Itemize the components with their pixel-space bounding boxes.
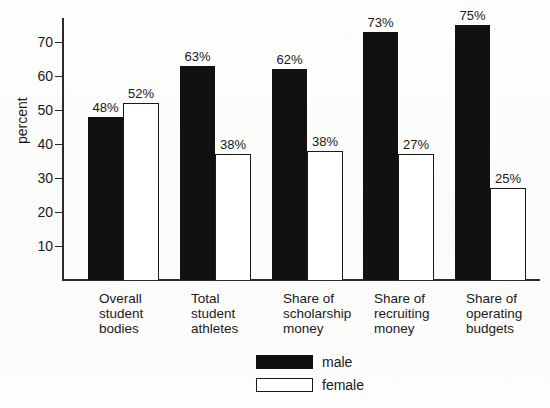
chart-legend: malefemale: [256, 355, 364, 401]
y-axis-tick-10: [55, 246, 63, 247]
y-axis-tick-20: [55, 212, 63, 213]
bar-value-label: 38%: [312, 134, 338, 149]
legend-label-female: female: [322, 378, 364, 392]
category-label: Share of operating budgets: [466, 291, 522, 336]
legend-swatch-female: [256, 378, 313, 392]
y-axis-tick-50: [55, 110, 63, 111]
y-axis-tick-label-70: 70: [13, 35, 53, 49]
y-axis-tick-60: [55, 76, 63, 77]
bar-group: 48%52%: [88, 103, 159, 280]
grouped-bar-chart: percent 10203040506070 48%52%63%38%62%38…: [0, 0, 550, 408]
legend-swatch-male: [256, 355, 313, 369]
bar-female: 27%: [398, 154, 434, 280]
y-axis-tick-30: [55, 178, 63, 179]
bar-value-label: 48%: [92, 100, 118, 115]
bar-value-label: 25%: [495, 171, 521, 186]
y-axis-tick-70: [55, 42, 63, 43]
bar-female: 38%: [215, 154, 251, 280]
bar-group: 62%38%: [272, 69, 343, 280]
bar-male: 62%: [272, 69, 307, 280]
bar-group: 75%25%: [455, 25, 526, 280]
plot-area: 48%52%63%38%62%38%73%27%75%25%: [63, 18, 540, 280]
category-label: Overall student bodies: [99, 291, 143, 336]
bar-male: 73%: [363, 32, 398, 280]
bar-female: 25%: [490, 188, 526, 280]
bar-male: 75%: [455, 25, 490, 280]
legend-label-male: male: [322, 355, 352, 369]
y-axis-tick-label-50: 50: [13, 103, 53, 117]
bar-value-label: 63%: [184, 49, 210, 64]
bar-female: 52%: [123, 103, 159, 280]
bar-value-label: 27%: [403, 137, 429, 152]
bar-value-label: 75%: [459, 8, 485, 23]
category-label: Total student athletes: [191, 291, 238, 336]
bar-female: 38%: [307, 151, 343, 280]
bar-value-label: 38%: [220, 137, 246, 152]
y-axis-tick-label-30: 30: [13, 171, 53, 185]
legend-item-female: female: [256, 378, 364, 392]
y-axis-tick-label-40: 40: [13, 137, 53, 151]
bar-male: 48%: [88, 117, 123, 280]
bar-group: 73%27%: [363, 32, 434, 280]
y-axis-tick-label-60: 60: [13, 69, 53, 83]
y-axis-tick-label-10: 10: [13, 239, 53, 253]
category-label: Share of scholarship money: [283, 291, 351, 336]
bar-value-label: 52%: [128, 86, 154, 101]
bar-value-label: 62%: [276, 52, 302, 67]
y-axis-tick-40: [55, 144, 63, 145]
category-label: Share of recruiting money: [374, 291, 430, 336]
legend-item-male: male: [256, 355, 364, 369]
bar-value-label: 73%: [367, 15, 393, 30]
bar-group: 63%38%: [180, 66, 251, 280]
bar-male: 63%: [180, 66, 215, 280]
y-axis-tick-label-20: 20: [13, 205, 53, 219]
